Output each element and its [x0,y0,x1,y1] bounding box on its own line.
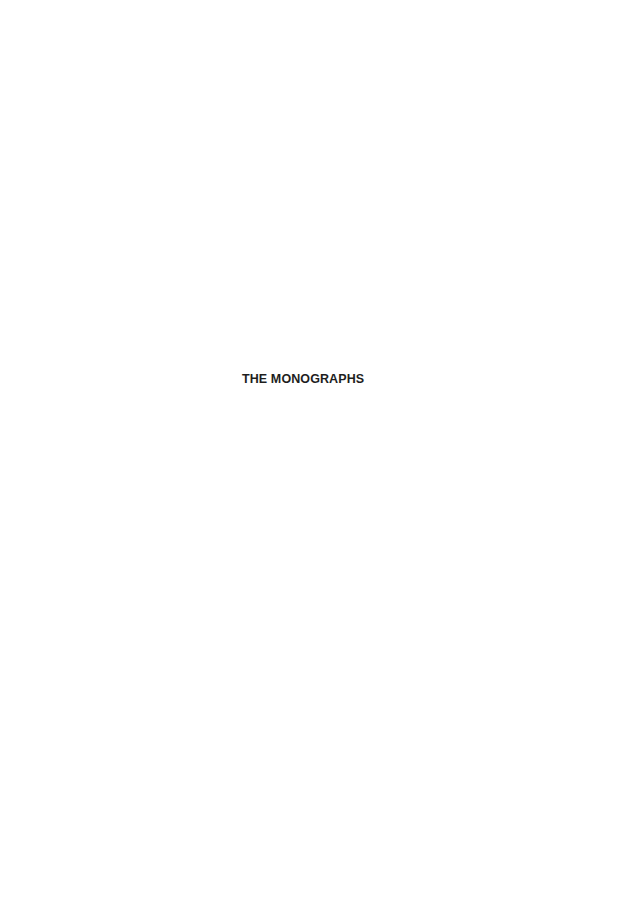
document-page: THE MONOGRAPHS [0,0,627,899]
section-title: THE MONOGRAPHS [242,372,364,386]
